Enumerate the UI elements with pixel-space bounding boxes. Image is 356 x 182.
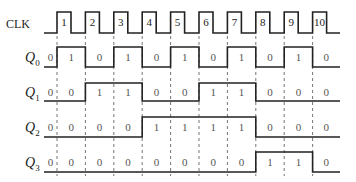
state-value: 0 bbox=[210, 156, 216, 168]
state-value: 0 bbox=[68, 121, 74, 133]
state-value: 1 bbox=[239, 86, 245, 98]
state-value: 0 bbox=[48, 156, 54, 168]
state-value: 0 bbox=[267, 86, 273, 98]
clock-pulse-number: 5 bbox=[175, 16, 181, 28]
state-value: 0 bbox=[239, 156, 245, 168]
state-value: 0 bbox=[324, 51, 330, 63]
state-value: 1 bbox=[296, 156, 302, 168]
state-value: 0 bbox=[97, 156, 103, 168]
state-value: 0 bbox=[210, 51, 216, 63]
signal-label-q0: Q0 bbox=[25, 50, 40, 68]
state-value: 0 bbox=[48, 121, 54, 133]
state-value: 0 bbox=[324, 156, 330, 168]
clock-pulse-number: 3 bbox=[118, 16, 124, 28]
state-value: 0 bbox=[324, 121, 330, 133]
state-value: 1 bbox=[125, 86, 131, 98]
state-value: 0 bbox=[68, 86, 74, 98]
clock-pulse-number: 1 bbox=[61, 16, 67, 28]
state-value: 1 bbox=[97, 86, 103, 98]
state-value: 0 bbox=[182, 86, 188, 98]
state-value: 1 bbox=[68, 51, 74, 63]
state-value: 0 bbox=[154, 86, 160, 98]
state-value: 1 bbox=[239, 51, 245, 63]
timing-diagram-svg: 1234567891001010101010001100110000000111… bbox=[0, 0, 356, 182]
state-value: 0 bbox=[324, 86, 330, 98]
clock-pulse-number: 4 bbox=[146, 16, 152, 28]
state-value: 0 bbox=[125, 121, 131, 133]
state-value: 1 bbox=[154, 121, 160, 133]
state-value: 1 bbox=[182, 51, 188, 63]
state-value: 0 bbox=[48, 86, 54, 98]
state-value: 1 bbox=[182, 121, 188, 133]
clock-pulse-number: 2 bbox=[90, 16, 96, 28]
state-value: 0 bbox=[296, 86, 302, 98]
clk-waveform bbox=[44, 12, 340, 33]
signal-label-clk: CLK bbox=[6, 17, 30, 31]
state-value: 1 bbox=[125, 51, 131, 63]
timing-diagram: 1234567891001010101010001100110000000111… bbox=[0, 0, 356, 182]
state-value: 0 bbox=[267, 121, 273, 133]
state-value: 0 bbox=[97, 121, 103, 133]
state-value: 1 bbox=[210, 86, 216, 98]
state-value: 0 bbox=[68, 156, 74, 168]
state-value: 1 bbox=[239, 121, 245, 133]
state-value: 0 bbox=[154, 156, 160, 168]
state-value: 0 bbox=[48, 51, 54, 63]
state-value: 0 bbox=[267, 51, 273, 63]
signal-label-q1: Q1 bbox=[25, 85, 40, 103]
state-value: 0 bbox=[154, 51, 160, 63]
state-value: 0 bbox=[182, 156, 188, 168]
clock-pulse-number: 9 bbox=[288, 16, 294, 28]
signal-label-q3: Q3 bbox=[25, 155, 40, 173]
state-value: 0 bbox=[296, 121, 302, 133]
clock-pulse-number: 8 bbox=[260, 16, 266, 28]
state-value: 1 bbox=[210, 121, 216, 133]
clock-pulse-number: 10 bbox=[314, 16, 326, 28]
state-value: 1 bbox=[267, 156, 273, 168]
signal-label-q2: Q2 bbox=[25, 120, 40, 138]
state-value: 0 bbox=[97, 51, 103, 63]
clock-pulse-number: 6 bbox=[203, 16, 209, 28]
clock-pulse-number: 7 bbox=[232, 16, 238, 28]
state-value: 1 bbox=[296, 51, 302, 63]
state-value: 0 bbox=[125, 156, 131, 168]
